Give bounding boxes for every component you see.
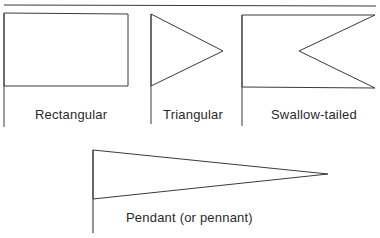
label-swallow-tailed: Swallow-tailed bbox=[271, 107, 357, 122]
label-triangular: Triangular bbox=[163, 107, 223, 122]
top-rule-divider bbox=[4, 5, 376, 6]
triangular-flag-shape bbox=[151, 14, 223, 86]
label-rectangular: Rectangular bbox=[35, 107, 107, 122]
swallow-tailed-flag-shape bbox=[242, 15, 375, 88]
rectangular-flag-shape bbox=[4, 13, 128, 86]
pendant-flag-shape bbox=[93, 150, 328, 199]
label-pendant: Pendant (or pennant) bbox=[126, 210, 253, 225]
